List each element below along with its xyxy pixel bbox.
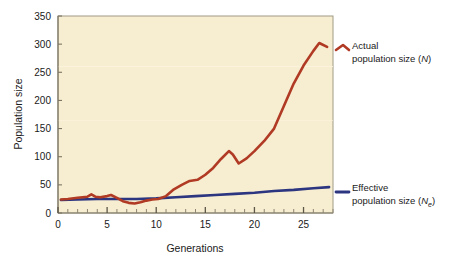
- paper-texture-streak: [58, 66, 333, 67]
- chart-svg: 050100150200250300350 0510152025 Populat…: [0, 0, 450, 263]
- legend-actual-prefix: population size (: [352, 53, 422, 64]
- y-tick-label: 200: [34, 95, 51, 106]
- x-tick-label: 25: [298, 219, 310, 230]
- legend-entry-actual: Actual population size (N): [336, 40, 431, 64]
- x-tick-label: 15: [200, 219, 212, 230]
- x-tick-label: 0: [55, 219, 61, 230]
- y-tick-label: 300: [34, 39, 51, 50]
- y-axis-tick-labels: 050100150200250300350: [34, 11, 51, 219]
- x-tick-label: 5: [104, 219, 110, 230]
- y-tick-label: 250: [34, 67, 51, 78]
- legend-label-effective-line1: Effective: [352, 182, 388, 193]
- legend-entry-effective: Effective population size (Ne): [336, 182, 435, 208]
- y-tick-label: 100: [34, 151, 51, 162]
- legend-actual-suffix: ): [428, 53, 431, 64]
- legend-label-actual-line2: population size (N): [352, 53, 431, 64]
- x-tick-label: 20: [249, 219, 261, 230]
- y-axis-title: Population size: [12, 78, 24, 149]
- x-tick-label: 10: [151, 219, 163, 230]
- legend-swatch-actual-icon: [336, 45, 349, 50]
- y-tick-label: 150: [34, 123, 51, 134]
- x-axis-tick-labels: 0510152025: [55, 219, 309, 230]
- x-axis-title: Generations: [166, 242, 223, 254]
- population-size-chart: 050100150200250300350 0510152025 Populat…: [0, 0, 450, 263]
- legend-effective-suffix: ): [432, 195, 435, 206]
- legend-effective-prefix: population size (: [352, 195, 422, 206]
- y-tick-label: 0: [45, 208, 51, 219]
- paper-texture-streak: [58, 120, 333, 121]
- y-tick-label: 50: [40, 179, 52, 190]
- y-tick-label: 350: [34, 11, 51, 22]
- plot-area-background: [58, 16, 333, 213]
- legend-label-actual-line1: Actual: [352, 40, 378, 51]
- legend-label-effective-line2: population size (Ne): [352, 195, 435, 208]
